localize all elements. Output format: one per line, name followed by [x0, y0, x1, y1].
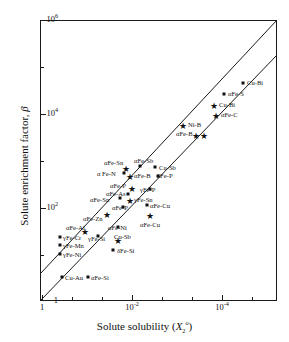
- data-point-label-Fe-Al-23: αFe-Al: [66, 225, 85, 232]
- y-tick-label-1e4: 104: [46, 109, 58, 118]
- y-tick-1e1: [40, 255, 44, 256]
- data-point-Fe-Sb-7: [139, 165, 142, 168]
- data-point-label-Cu-Bi-2: Cu-Bi: [219, 102, 235, 109]
- data-point-label-Fe-Si-28: δFe-Si: [117, 248, 134, 255]
- y-tick-label-1e6: 106: [46, 15, 58, 24]
- data-point-label-Fe-Si-25: γFe-Si: [88, 236, 105, 243]
- data-point-label-Fe-Mn-27: γFe-Mn: [63, 243, 84, 250]
- x-tick-1e-1b: [102, 297, 103, 301]
- data-point-label-Fe-Zn-21: αFe-Zn: [83, 216, 103, 223]
- data-point-label-Fe-Ni-29: γFe-Ni: [63, 252, 81, 259]
- y-tick-1e4: [40, 114, 46, 115]
- y-tick-label-1e2: 102: [46, 203, 58, 212]
- data-point-label-Fe-Sn-9: αFe-Sn: [104, 160, 123, 167]
- data-point-Fe-Ni-29: [59, 253, 62, 256]
- y-tick-label-1e0: 1: [54, 296, 58, 305]
- y-tick-1e6: [40, 20, 46, 21]
- data-point-label-Fe-Sn-17: αFe-Sn: [90, 197, 109, 204]
- data-point-label-Fe-B-11: αFe-B: [134, 173, 151, 180]
- data-point-Fe-Sn-17: [119, 197, 122, 200]
- data-point-label-Cu-Sb-26: Cu-Sb: [114, 234, 131, 241]
- data-point-label-Fe-P-12: δFe-P: [157, 173, 173, 180]
- data-point-label-Fe-S-1: αFe-S: [228, 91, 244, 98]
- data-point-Fe-Si-31: [87, 276, 90, 279]
- data-point-label-Fe-Cr-24: γFe-Cr: [63, 235, 81, 242]
- data-point-Cu-Bi-0: [242, 82, 245, 85]
- data-point-Fe-Cr-24: [59, 236, 62, 239]
- data-point-label-Fe-B-5: αFe-B: [176, 131, 193, 138]
- x-tick-label-1e-4: 10-4: [215, 303, 229, 312]
- scatter-chart-figure: 106 104 102 1 1 10-2 10-4 Solute enrichm…: [0, 0, 289, 342]
- data-point-Fe-S-1: [223, 93, 226, 96]
- data-point-label-Fe-P-18: αFe-P: [112, 205, 128, 212]
- x-tick-1e-3: [162, 297, 163, 301]
- data-point-Fe-Mn-27: [59, 244, 62, 247]
- data-point-Fe-Cu-19: [146, 204, 149, 207]
- data-point-label-Fe-Ni-22: αFe-Ni: [108, 225, 127, 232]
- x-tick-label-1: 1: [40, 303, 44, 312]
- data-point-label-Fe-Si-31: αFe-Si: [91, 275, 109, 282]
- data-point-label-Cu-Sb-8: Cu-Sb: [159, 165, 176, 172]
- plot-area: [40, 20, 277, 301]
- x-tick-1: [42, 295, 43, 301]
- y-tick-1e2: [40, 208, 46, 209]
- x-tick-1e-1: [72, 297, 73, 301]
- data-point-label-Cu-Bi-0: Cu-Bi: [247, 80, 263, 87]
- data-point-label-Ni-B-4: Ni-B: [188, 122, 201, 129]
- x-tick-1e-3b: [192, 297, 193, 301]
- x-tick-label-1e-2: 10-2: [125, 303, 139, 312]
- data-point-Fe-Si-28: [112, 249, 115, 252]
- y-tick-1e0: [40, 300, 46, 301]
- data-point-label-Fe-P-14: γFe-P: [140, 187, 155, 194]
- data-point-label-Fe-Cu-20: αFe-Cu: [140, 222, 160, 229]
- data-point-label-Fe-Sb-7: αFe-Sb: [134, 158, 153, 165]
- data-point-label-Fe-Cu-19: αFe-Cu: [150, 203, 170, 210]
- data-point-label-Fe-C-3: αFe-C: [221, 112, 238, 119]
- y-axis-title: Solute enrichment factor, β: [18, 56, 30, 276]
- data-point-label-Fe-P-13: αFe-P: [110, 183, 126, 190]
- x-axis-title: Solute solubility (X2o): [0, 320, 289, 332]
- y-tick-1e5: [40, 67, 44, 68]
- data-point-Cu-Sb-8: [154, 166, 157, 169]
- data-point-label-Cu-Au-30: Cu-Au: [65, 275, 83, 282]
- x-tick-1e-5: [252, 297, 253, 301]
- y-tick-1e3: [40, 161, 44, 162]
- data-point-label-Fe-N-10: α Fe-N: [97, 171, 116, 178]
- data-point-Cu-Au-30: [61, 276, 64, 279]
